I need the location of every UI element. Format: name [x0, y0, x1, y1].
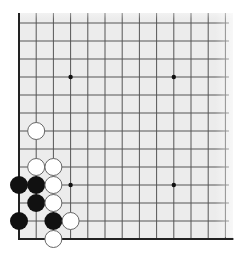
star-point-icon	[68, 183, 72, 187]
black-stone[interactable]	[27, 194, 45, 212]
go-board[interactable]	[0, 0, 250, 262]
board-fade-top	[20, 0, 250, 19]
white-stone[interactable]	[45, 231, 62, 248]
go-board-canvas[interactable]	[0, 0, 250, 262]
white-stone[interactable]	[45, 177, 62, 194]
white-stone[interactable]	[62, 213, 79, 230]
star-point-icon	[172, 183, 176, 187]
white-stone[interactable]	[28, 159, 45, 176]
white-stone[interactable]	[45, 195, 62, 212]
white-stone[interactable]	[28, 123, 45, 140]
white-stone[interactable]	[45, 159, 62, 176]
black-stone[interactable]	[10, 176, 28, 194]
black-stone[interactable]	[44, 212, 62, 230]
black-stone[interactable]	[10, 212, 28, 230]
star-point-icon	[172, 75, 176, 79]
board-fade-right	[215, 0, 245, 237]
black-stone[interactable]	[27, 176, 45, 194]
star-point-icon	[68, 75, 72, 79]
